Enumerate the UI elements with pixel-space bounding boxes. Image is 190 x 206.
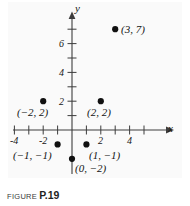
data-points [40,26,118,162]
point-label-neg1-neg1: (−1, −1) [13,150,52,161]
data-point [112,26,118,32]
figure-caption-prefix: FIGURE [7,192,37,201]
coordinate-plane: x y -4 -2 2 4 2 4 6 (3, 7) (−2, 2) (2, 2… [8,2,182,178]
x-tick-label-pos4: 4 [127,136,132,146]
x-axis [13,126,174,133]
point-label-0-neg2: (0, −2) [75,163,106,174]
point-label-1-neg1: (1, −1) [89,150,120,161]
data-point [40,98,46,104]
data-point [83,141,89,147]
y-tick-label-2: 2 [59,97,64,107]
y-tick-label-4: 4 [59,68,64,78]
point-label-3-7: (3, 7) [121,24,145,35]
y-axis-label: y [75,3,80,14]
figure-container: x y -4 -2 2 4 2 4 6 (3, 7) (−2, 2) (2, 2… [0,0,190,206]
figure-caption-number: P.19 [39,189,59,201]
y-axis [69,12,76,175]
data-point [55,141,61,147]
data-point [98,98,104,104]
point-label-neg2-2: (−2, 2) [17,107,48,118]
point-label-2-2: (2, 2) [87,107,111,118]
x-axis-label: x [168,123,173,134]
x-tick-label-pos2: 2 [98,136,103,146]
x-tick-label-neg4: -4 [10,136,18,146]
x-tick-label-neg2: -2 [39,136,47,146]
data-point [69,156,75,162]
y-tick-label-6: 6 [59,39,64,49]
figure-caption: FIGUREP.19 [7,186,59,202]
